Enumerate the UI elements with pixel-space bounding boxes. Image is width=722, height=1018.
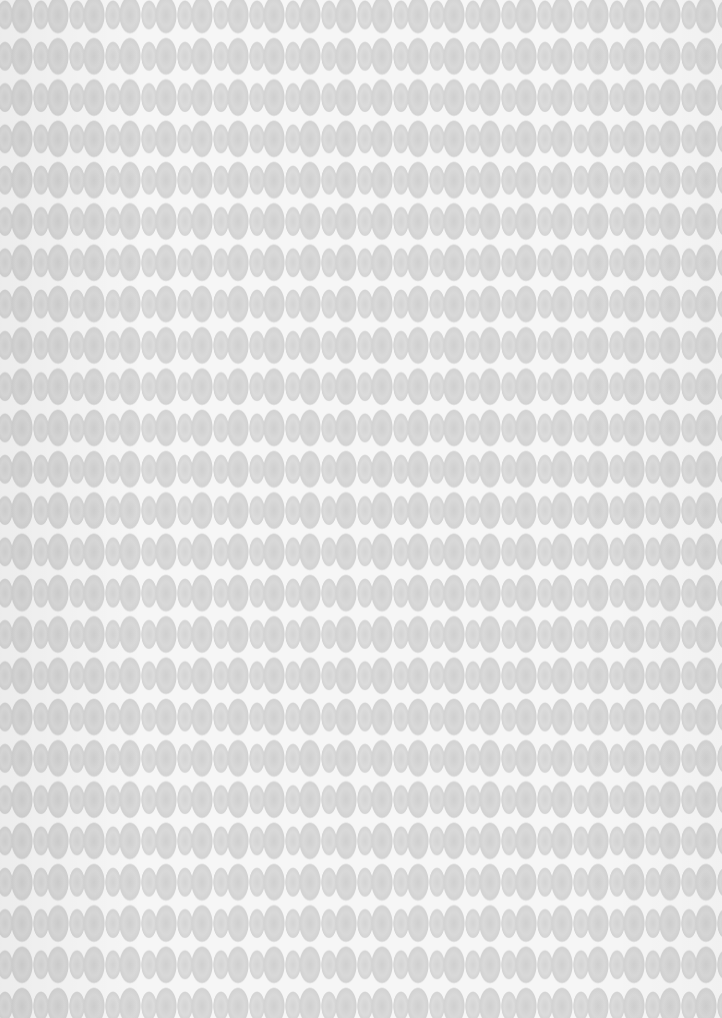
scan-shading bbox=[0, 0, 722, 1018]
